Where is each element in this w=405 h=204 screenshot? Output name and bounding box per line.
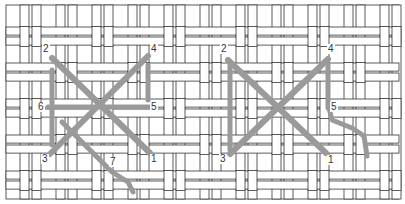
left-tail-to-7-stroke xyxy=(62,122,133,192)
right-stitch-label-4: 4 xyxy=(327,44,335,54)
right-stitch-label-2: 2 xyxy=(220,44,228,54)
right-stitch-label-1: 1 xyxy=(327,155,335,165)
left-stitch-label-1: 1 xyxy=(150,154,158,164)
left-stitch-label-4: 4 xyxy=(150,44,158,54)
thread-strokes xyxy=(0,0,405,204)
left-stitch-label-7: 7 xyxy=(109,157,117,167)
left-stitch-label-6: 6 xyxy=(37,102,45,112)
stitch-diagram: 246537124531 xyxy=(0,0,405,204)
left-stitch-label-3: 3 xyxy=(41,154,49,164)
right-stitch-label-5: 5 xyxy=(330,102,338,112)
left-stitch-label-2: 2 xyxy=(42,44,50,54)
right-stitch-label-3: 3 xyxy=(219,154,227,164)
left-stitch-label-5: 5 xyxy=(150,102,158,112)
right-tail-from-5-stroke xyxy=(329,108,367,156)
